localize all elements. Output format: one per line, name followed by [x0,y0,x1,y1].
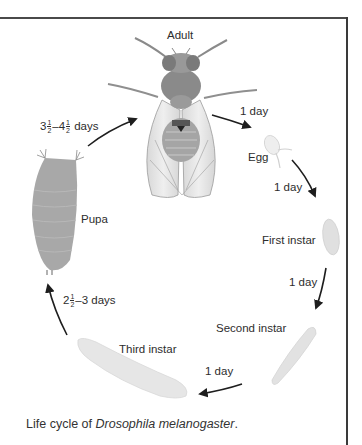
duration-adult-to-egg: 1 day [240,105,268,118]
life-cycle-illustration [0,0,362,445]
arrow-second-to-third [200,384,242,394]
duration-first-to-second: 1 day [289,276,317,289]
species-name: Drosophila melanogaster [95,417,234,431]
fraction-half: 12 [66,119,70,134]
duration-second-to-third: 1 day [205,365,233,378]
label-first-instar: First instar [262,234,316,247]
first-instar-larva-icon [321,218,342,256]
figure-caption: Life cycle of Drosophila melanogaster. [26,417,238,431]
label-pupa: Pupa [81,213,108,226]
label-adult: Adult [167,29,193,42]
pupa-icon [32,149,84,275]
label-egg: Egg [248,151,268,164]
fraction-half: 12 [70,293,74,308]
second-instar-larva-icon [272,327,316,384]
duration-egg-to-first: 1 day [274,181,302,194]
duration-pupa-to-adult: 312–412 days [40,119,99,134]
duration-third-to-pupa: 212–3 days [63,293,116,308]
label-second-instar: Second instar [216,322,286,335]
label-third-instar: Third instar [119,343,177,356]
fraction-half: 12 [47,119,51,134]
arrow-first-to-second [316,268,326,308]
adult-fly-icon [108,38,257,198]
